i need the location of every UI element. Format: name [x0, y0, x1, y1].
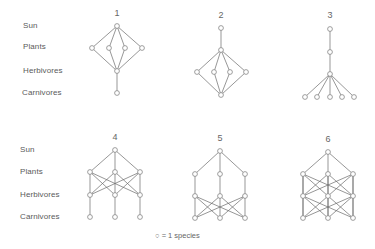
species-node — [218, 149, 223, 154]
food-web-w3 — [303, 27, 357, 100]
food-web-w1 — [90, 24, 145, 96]
species-node — [219, 26, 224, 31]
species-node — [115, 69, 120, 74]
feeding-link — [221, 50, 230, 72]
species-node — [301, 194, 306, 199]
species-node — [243, 216, 248, 221]
species-node — [326, 194, 331, 199]
feeding-link — [328, 152, 353, 174]
species-node — [243, 194, 248, 199]
feeding-link — [221, 50, 246, 72]
species-node — [218, 194, 223, 199]
species-node — [88, 170, 93, 175]
species-node — [88, 193, 93, 198]
species-node — [107, 46, 112, 51]
species-node — [115, 91, 120, 96]
food-web-diagrams — [0, 0, 375, 249]
feeding-link — [115, 150, 140, 172]
legend-text: = 1 species — [162, 231, 200, 240]
species-node — [113, 193, 118, 198]
species-node — [138, 215, 143, 220]
species-node — [351, 216, 356, 221]
species-node — [328, 95, 333, 100]
food-web-w4 — [88, 148, 143, 220]
food-web-w5 — [193, 149, 248, 221]
species-node — [90, 46, 95, 51]
feeding-link — [305, 74, 330, 97]
species-node — [244, 70, 249, 75]
species-node-icon: ○ — [155, 231, 160, 240]
species-node — [218, 216, 223, 221]
species-node — [218, 172, 223, 177]
species-node — [303, 95, 308, 100]
species-node — [315, 95, 320, 100]
species-node — [243, 172, 248, 177]
species-node — [351, 172, 356, 177]
feeding-link — [220, 151, 245, 174]
species-node — [301, 216, 306, 221]
feeding-link — [221, 72, 246, 95]
species-node — [138, 170, 143, 175]
feeding-link — [90, 150, 115, 172]
feeding-link — [330, 74, 342, 97]
feeding-link — [330, 74, 354, 97]
species-node — [328, 72, 333, 77]
food-web-w2 — [195, 26, 249, 98]
species-node — [352, 95, 357, 100]
species-node — [328, 50, 333, 55]
feeding-link — [317, 74, 330, 97]
feeding-link — [195, 151, 220, 174]
species-node — [140, 46, 145, 51]
species-node — [326, 150, 331, 155]
food-web-w6 — [301, 150, 356, 221]
species-node — [193, 194, 198, 199]
species-node — [340, 95, 345, 100]
species-node — [219, 48, 224, 53]
species-node — [351, 194, 356, 199]
species-node — [328, 27, 333, 32]
species-node — [326, 216, 331, 221]
legend: ○ = 1 species — [155, 231, 200, 240]
species-node — [195, 70, 200, 75]
feeding-link — [221, 72, 230, 95]
species-node — [123, 46, 128, 51]
species-node — [228, 70, 233, 75]
species-node — [193, 216, 198, 221]
species-node — [115, 24, 120, 29]
feeding-link — [303, 152, 328, 174]
species-node — [113, 170, 118, 175]
species-node — [212, 70, 217, 75]
species-node — [138, 193, 143, 198]
species-node — [219, 93, 224, 98]
species-node — [301, 172, 306, 177]
species-node — [193, 172, 198, 177]
species-node — [113, 148, 118, 153]
species-node — [113, 215, 118, 220]
species-node — [88, 215, 93, 220]
species-node — [326, 172, 331, 177]
